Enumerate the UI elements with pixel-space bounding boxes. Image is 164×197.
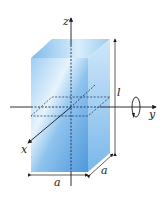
x-axis-label: x	[21, 143, 28, 156]
block-front-face	[31, 58, 88, 172]
length-label: l	[117, 86, 121, 99]
width-label: a	[54, 176, 61, 189]
block-side-face	[88, 39, 110, 172]
depth-label: a	[101, 164, 108, 177]
z-axis-label: z	[62, 15, 69, 28]
rotation-arrowhead	[132, 113, 135, 118]
block-diagram: z y x l a a	[0, 0, 164, 197]
y-axis-label: y	[148, 108, 156, 121]
